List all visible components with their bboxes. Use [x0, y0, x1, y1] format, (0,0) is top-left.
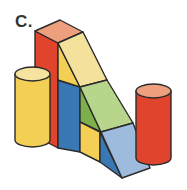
red-cylinder	[136, 84, 171, 165]
blue-block-side	[58, 80, 80, 152]
yellow-cylinder	[15, 67, 50, 147]
blocks-illustration	[0, 0, 187, 190]
